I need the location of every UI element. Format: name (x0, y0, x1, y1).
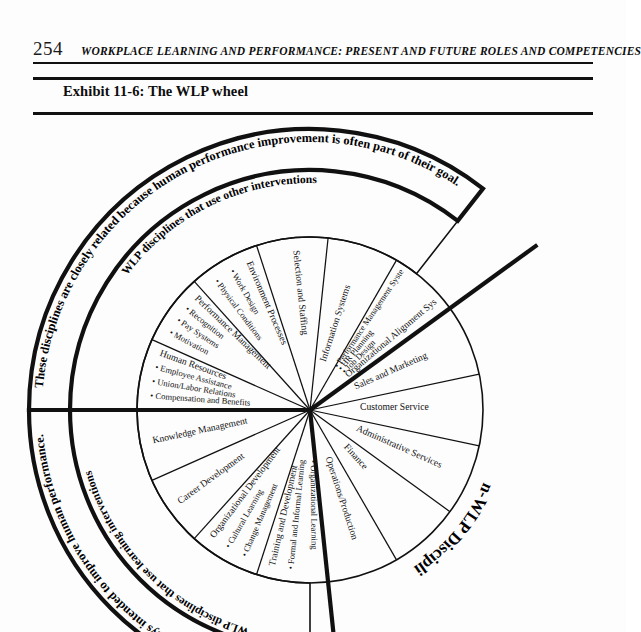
band-label-left-outer: These disciplines are always intended to… (32, 434, 286, 632)
wheel-sectors-layer (29, 237, 537, 632)
running-head-row: 254 WORKPLACE LEARNING AND PERFORMANCE: … (33, 38, 593, 60)
sector-label-3: Selection and Staffing (291, 250, 311, 336)
sector-label-7: Customer Service (360, 401, 429, 412)
exhibit-title: Exhibit 11-6: The WLP wheel (63, 83, 248, 100)
band-label-left-inner: WLP disciplines that use learning interv… (81, 469, 250, 632)
running-head-title: WORKPLACE LEARNING AND PERFORMANCE: PRES… (81, 45, 641, 57)
sector-label-10: Operations/Production (324, 455, 361, 541)
sector-label-14: Knowledge Management (151, 414, 248, 445)
sector-label-9: Finance (342, 441, 371, 471)
sector-bullet-11-2: • Organizational Learning (309, 460, 320, 550)
page-number: 254 (33, 38, 63, 60)
wlp-wheel-figure: These disciplines are always intended to… (0, 110, 626, 632)
rule-under-running-head (33, 62, 593, 64)
annotation-bands-layer (29, 129, 483, 632)
wlp-wheel-svg: These disciplines are always intended to… (0, 110, 626, 632)
rule-above-exhibit-title (33, 77, 593, 80)
